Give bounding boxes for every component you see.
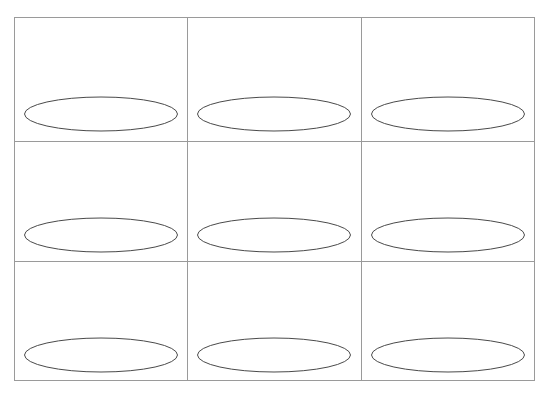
grid-of-ellipses-figure	[0, 0, 549, 409]
figure-background	[0, 0, 549, 409]
figure-canvas	[0, 0, 549, 409]
